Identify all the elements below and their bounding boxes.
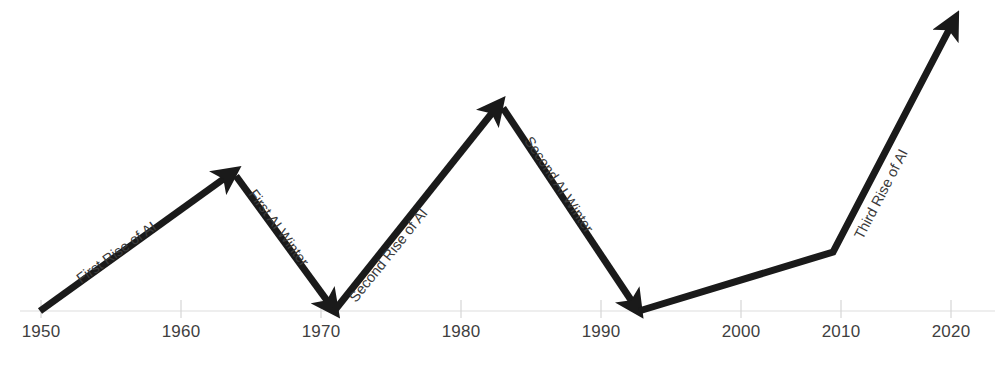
segment-third-rise-of-ai — [639, 24, 952, 311]
axis-tick-label-1990: 1990 — [582, 322, 621, 342]
axis-tick-label-1980: 1980 — [442, 322, 481, 342]
axis-tick-label-1970: 1970 — [302, 322, 341, 342]
ai-history-timeline-figure: 1950 1960 1970 1980 1990 2000 2010 2020 … — [0, 0, 1005, 369]
trend-polyline-group — [40, 24, 952, 311]
axis-ticks — [41, 300, 951, 318]
axis-group — [20, 300, 995, 318]
axis-tick-label-1950: 1950 — [22, 322, 61, 342]
axis-tick-label-2000: 2000 — [722, 322, 761, 342]
axis-tick-label-2010: 2010 — [822, 322, 861, 342]
axis-tick-label-1960: 1960 — [162, 322, 201, 342]
timeline-canvas — [0, 0, 1005, 369]
axis-tick-label-2020: 2020 — [932, 322, 971, 342]
